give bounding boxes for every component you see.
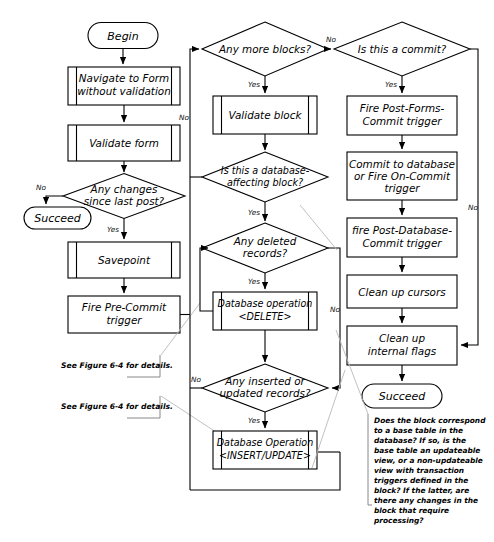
edge-label-blocks-yes: Yes bbox=[248, 80, 260, 89]
reference-note-1-label: See Figure 6-4 for details. bbox=[61, 361, 173, 370]
node-db-delete: Database operation <DELETE> bbox=[213, 292, 317, 330]
flowchart-canvas: Begin Navigate to Form without validatio… bbox=[0, 0, 494, 542]
node-db-insert-line-0: Database Operation bbox=[217, 437, 314, 448]
node-validate-block-label: Validate block bbox=[229, 109, 303, 121]
annotation-line-1: to a base table in the bbox=[374, 426, 463, 435]
annotation-line-9: block that require bbox=[374, 506, 449, 515]
annotation-line-5: view with transaction bbox=[374, 466, 464, 475]
edge-dbdelete-loop bbox=[200, 248, 213, 311]
node-commit-db: Commit to database or Fire On-Commit tri… bbox=[347, 152, 457, 200]
node-commit-db-line-0: Commit to database bbox=[349, 158, 455, 170]
node-is-db-block-line-0: Is this a database- bbox=[221, 165, 310, 176]
node-any-changes-line-0: Any changes bbox=[90, 183, 158, 195]
edge-anychanges-no bbox=[46, 196, 63, 204]
node-any-more-blocks-label: Any more blocks? bbox=[218, 43, 312, 55]
edge-label-commit-no: No bbox=[468, 203, 478, 212]
node-any-deleted-line-0: Any deleted bbox=[233, 235, 297, 247]
node-commit-db-line-1: or Fire On-Commit bbox=[354, 170, 451, 182]
node-any-inserted-line-1: updated records? bbox=[219, 387, 311, 399]
edge-label-dbblock-yes: Yes bbox=[248, 208, 260, 217]
node-is-commit: Is this a commit? bbox=[334, 22, 470, 76]
annotation-line-8: there any changes in the bbox=[374, 496, 478, 505]
node-any-deleted-line-1: records? bbox=[243, 247, 288, 259]
annotation-note: Does the block correspond to a base tabl… bbox=[368, 414, 486, 525]
edge-label-inserted-yes: Yes bbox=[248, 416, 260, 425]
node-clean-cursors: Clean up cursors bbox=[347, 275, 457, 308]
edge-label-commit-yes: Yes bbox=[385, 80, 397, 89]
node-clean-flags-line-1: internal flags bbox=[368, 345, 437, 357]
reference-note-2-label: See Figure 6-4 for details. bbox=[61, 402, 173, 411]
leader-line-2 bbox=[161, 396, 216, 432]
edge-label-inserted-no: No bbox=[191, 375, 201, 384]
edge-label-deleted-yes: Yes bbox=[248, 277, 260, 286]
node-navigate: Navigate to Form without validation bbox=[68, 67, 180, 105]
node-any-inserted: Any inserted or updated records? bbox=[202, 364, 328, 412]
flowchart-svg: Begin Navigate to Form without validatio… bbox=[0, 0, 494, 542]
node-fire-pre-commit-line-1: trigger bbox=[106, 314, 142, 326]
node-validate-block: Validate block bbox=[213, 96, 317, 134]
node-is-db-block: Is this a database- affecting block? bbox=[202, 152, 328, 202]
edge-commit-no-path bbox=[461, 49, 478, 345]
node-succeed-left: Succeed bbox=[24, 207, 91, 229]
edge-deleted-no bbox=[328, 248, 340, 388]
node-succeed-left-label: Succeed bbox=[34, 212, 82, 225]
node-any-inserted-line-0: Any inserted or bbox=[224, 375, 305, 387]
edge-label-changes-yes: Yes bbox=[107, 225, 119, 234]
node-any-changes-line-1: since last post? bbox=[84, 195, 165, 207]
annotation-line-0: Does the block correspond bbox=[374, 416, 486, 425]
reference-note-2: See Figure 6-4 for details. bbox=[61, 396, 173, 418]
node-fire-post-db-line-0: fire Post-Database- bbox=[352, 224, 452, 236]
node-clean-cursors-label: Clean up cursors bbox=[358, 286, 446, 298]
node-validate-form: Validate form bbox=[68, 125, 180, 161]
node-clean-flags-line-0: Clean up bbox=[379, 332, 425, 344]
annotation-line-10: processing? bbox=[373, 516, 424, 525]
node-db-insert: Database Operation <INSERT/UPDATE> bbox=[213, 431, 317, 469]
edge-label-commit-no-top: No bbox=[326, 35, 336, 44]
node-fire-post-forms-line-1: Commit trigger bbox=[362, 115, 442, 127]
reference-note-1: See Figure 6-4 for details. bbox=[61, 355, 173, 377]
node-any-more-blocks: Any more blocks? bbox=[202, 22, 328, 76]
annotation-line-3: base table an updateable bbox=[374, 446, 480, 455]
node-fire-pre-commit: Fire Pre-Commit trigger bbox=[68, 296, 180, 333]
node-navigate-line-1: without validation bbox=[77, 85, 171, 97]
node-validate-form-label: Validate form bbox=[89, 137, 159, 149]
node-savepoint-label: Savepoint bbox=[98, 254, 151, 266]
node-fire-post-db-line-1: Commit trigger bbox=[362, 237, 442, 249]
node-clean-flags: Clean up internal flags bbox=[347, 326, 457, 365]
node-navigate-line-0: Navigate to Form bbox=[79, 72, 169, 84]
node-succeed-right: Succeed bbox=[362, 384, 442, 408]
edge-label-changes-no: No bbox=[36, 183, 46, 192]
node-fire-post-forms: Fire Post-Forms- Commit trigger bbox=[347, 96, 457, 135]
node-any-deleted: Any deleted records? bbox=[202, 223, 328, 273]
edge-label-deleted-no: No bbox=[330, 305, 340, 314]
node-is-db-block-line-1: affecting block? bbox=[227, 177, 303, 188]
node-fire-pre-commit-line-0: Fire Pre-Commit bbox=[82, 301, 167, 313]
annotation-line-2: database? If so, is the bbox=[374, 436, 466, 445]
annotation-line-7: block? If the latter, are bbox=[374, 486, 469, 495]
node-succeed-right-label: Succeed bbox=[379, 390, 427, 403]
edge-spine-anymoreblocks bbox=[190, 49, 199, 315]
annotation-line-4: view, or a non-updateable bbox=[374, 456, 483, 465]
node-fire-post-db: fire Post-Database- Commit trigger bbox=[347, 218, 457, 257]
node-fire-post-forms-line-0: Fire Post-Forms- bbox=[360, 102, 445, 114]
annotation-line-6: triggers defined in the bbox=[374, 476, 468, 485]
edge-label-blocks-no: No bbox=[179, 113, 189, 122]
node-db-delete-line-0: Database operation bbox=[218, 298, 313, 309]
node-savepoint: Savepoint bbox=[68, 242, 180, 278]
node-commit-db-line-2: trigger bbox=[384, 182, 420, 194]
node-begin-label: Begin bbox=[107, 30, 138, 43]
node-db-delete-line-1: <DELETE> bbox=[239, 311, 292, 322]
node-is-commit-label: Is this a commit? bbox=[358, 43, 447, 55]
node-db-insert-line-1: <INSERT/UPDATE> bbox=[219, 450, 311, 461]
node-begin: Begin bbox=[88, 23, 158, 49]
